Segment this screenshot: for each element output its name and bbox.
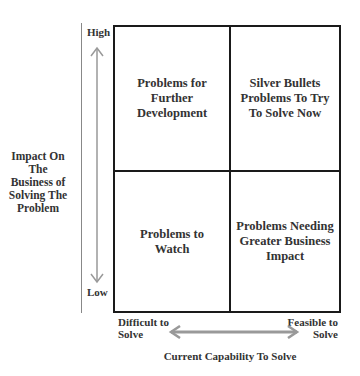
quadrant-text-line: To Solve Now <box>241 106 330 121</box>
y-axis-title-line: The <box>0 163 76 176</box>
x-axis-left-label: Difficult to Solve <box>118 316 169 340</box>
quadrant-text-line: Problems Needing <box>236 219 333 234</box>
quadrant-text-line: Impact <box>236 249 333 264</box>
quadrant-text-line: Further <box>137 91 207 106</box>
x-axis-left-label-line: Difficult to <box>118 316 169 328</box>
horizontal-arrow-icon <box>168 325 300 339</box>
quadrant-top-left: Problems for Further Development <box>115 27 229 170</box>
y-axis-title: Impact On The Business of Solving The Pr… <box>0 150 76 215</box>
quadrant-text-line: Development <box>137 106 207 121</box>
y-axis-title-line: Business of <box>0 176 76 189</box>
vertical-arrow-icon <box>90 45 104 285</box>
x-axis-left-label-line: Solve <box>118 328 169 340</box>
y-axis-title-line: Problem <box>0 202 76 215</box>
quadrant-text-line: Problems To Try <box>241 91 330 106</box>
quadrant-text-line: Problems to <box>140 227 204 242</box>
quadrant-text-line: Watch <box>140 242 204 257</box>
y-axis-title-line: Impact On <box>0 150 76 163</box>
quadrant-text-line: Problems for <box>137 76 207 91</box>
x-axis-title: Current Capability To Solve <box>100 350 360 362</box>
quadrant-top-right: Silver Bullets Problems To Try To Solve … <box>231 27 339 170</box>
y-axis-low-label: Low <box>87 286 108 298</box>
quadrant-text-line: Greater Business <box>236 234 333 249</box>
y-axis-line <box>81 23 82 313</box>
y-axis-title-line: Solving The <box>0 189 76 202</box>
quadrant-bottom-right: Problems Needing Greater Business Impact <box>231 172 339 311</box>
y-axis-high-label: High <box>87 26 110 38</box>
matrix-grid: Problems for Further Development Silver … <box>113 25 341 313</box>
quadrant-bottom-left: Problems to Watch <box>115 172 229 311</box>
quadrant-text-line: Silver Bullets <box>241 76 330 91</box>
